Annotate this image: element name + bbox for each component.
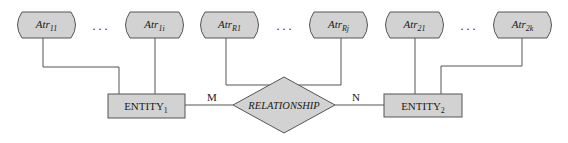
entity1-box[interactable]: ENTITY1 xyxy=(108,94,185,118)
attribute-atr2k[interactable]: Atr2k xyxy=(494,12,552,38)
attribute-atr21[interactable]: Atr21 xyxy=(386,12,444,38)
entity2-box[interactable]: ENTITY2 xyxy=(384,94,462,117)
er-diagram: Atr11Atr1iAtrR1AtrRjAtr21Atr2k . . . . .… xyxy=(0,0,568,143)
cardinality-m: M xyxy=(207,91,217,103)
cardinality-n: N xyxy=(352,91,360,103)
ellipsis-3: . . . xyxy=(461,19,476,33)
relationship-label: RELATIONSHIP xyxy=(247,100,320,111)
attribute-atrRj[interactable]: AtrRj xyxy=(310,12,368,38)
attribute-atrR1[interactable]: AtrR1 xyxy=(201,12,259,38)
ellipsis-2: . . . xyxy=(277,19,292,33)
attribute-atr1i[interactable]: Atr1i xyxy=(126,12,184,38)
line-atr2k-entity2 xyxy=(441,38,522,94)
attribute-atr11[interactable]: Atr11 xyxy=(18,12,76,38)
ellipsis-1: . . . xyxy=(93,19,108,33)
line-atr11-entity1 xyxy=(43,38,119,94)
